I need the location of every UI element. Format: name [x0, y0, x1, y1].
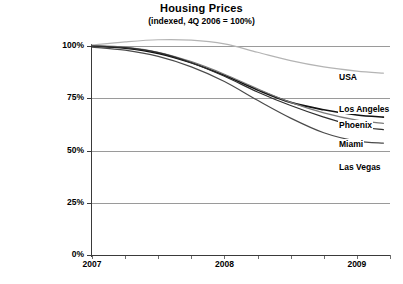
- x-axis-line: [92, 255, 390, 256]
- series-label-los-angeles: Los Angeles: [338, 104, 390, 114]
- series-label-phoenix: Phoenix: [338, 120, 373, 130]
- housing-prices-chart: Housing Prices (indexed, 4Q 2006 = 100%)…: [0, 0, 403, 284]
- series-label-las-vegas: Las Vegas: [338, 162, 382, 172]
- source-note: [2, 276, 262, 283]
- series-label-miami: Miami: [338, 139, 364, 149]
- series-line-usa: [92, 40, 383, 74]
- series-label-usa: USA: [338, 72, 358, 82]
